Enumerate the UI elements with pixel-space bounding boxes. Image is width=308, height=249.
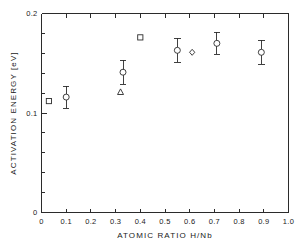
- y-tick-label-2: 0.2: [26, 9, 37, 18]
- y-axis-tick-labels: 00.10.2: [26, 9, 37, 217]
- x-tick-label-0: 0: [39, 217, 43, 226]
- series-squares: [46, 35, 143, 104]
- chart-figure: 00.10.20.30.40.50.60.70.80.91.0 00.10.2 …: [0, 0, 308, 249]
- y-axis-ticks: [42, 14, 47, 213]
- series-triangle: [118, 89, 124, 95]
- squares-point-1: [138, 35, 143, 40]
- x-tick-label-4: 0.4: [135, 217, 146, 226]
- y-axis-label: ACTIVATION ENERGY [eV]: [9, 51, 18, 174]
- x-tick-label-1: 0.1: [61, 217, 72, 226]
- data-points: [46, 32, 264, 108]
- frame-top-right: [42, 14, 289, 213]
- x-axis-label: ATOMIC RATIO H/Nb: [117, 231, 213, 240]
- scatter-plot: 00.10.20.30.40.50.60.70.80.91.0 00.10.2 …: [0, 0, 308, 249]
- series-diamond: [190, 49, 195, 55]
- series-circles-with-error-bars: [63, 32, 265, 108]
- circles-with-error-bars-point-0: [63, 94, 69, 100]
- squares-point-0: [46, 98, 51, 103]
- x-tick-label-5: 0.5: [159, 217, 170, 226]
- x-tick-label-8: 0.8: [233, 217, 244, 226]
- circles-with-error-bars-point-2: [174, 47, 180, 53]
- x-axis-tick-labels: 00.10.20.30.40.50.60.70.80.91.0: [39, 217, 294, 226]
- x-tick-label-3: 0.3: [110, 217, 121, 226]
- y-tick-label-0: 0: [33, 208, 37, 217]
- axis-lines: [42, 14, 289, 213]
- circles-with-error-bars-point-4: [258, 49, 264, 55]
- x-tick-label-9: 0.9: [258, 217, 269, 226]
- plot-frame: [42, 14, 289, 213]
- y-tick-label-1: 0.1: [26, 109, 37, 118]
- x-tick-label-2: 0.2: [85, 217, 96, 226]
- circles-with-error-bars-point-1: [120, 69, 126, 75]
- triangle-point-0: [118, 89, 124, 95]
- x-tick-label-7: 0.7: [209, 217, 220, 226]
- x-axis-ticks: [42, 14, 289, 213]
- circles-with-error-bars-point-3: [214, 40, 220, 46]
- x-tick-label-10: 1.0: [283, 217, 294, 226]
- diamond-point-0: [190, 49, 195, 55]
- x-tick-label-6: 0.6: [184, 217, 195, 226]
